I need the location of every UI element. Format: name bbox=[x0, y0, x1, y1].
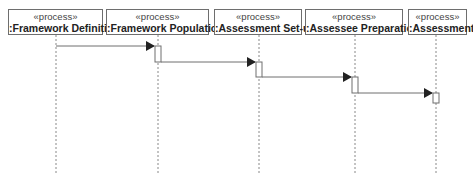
participant-name: :Assessment bbox=[409, 22, 466, 34]
participant-assessee-preparation: «process» :Assessee Preparation bbox=[305, 9, 403, 35]
sequence-diagram: «process» :Framework Definition «process… bbox=[0, 0, 473, 182]
arrowhead-icon bbox=[424, 88, 433, 98]
participant-name: :Assessee Preparation bbox=[306, 22, 402, 34]
participant-framework-definition: «process» :Framework Definition bbox=[8, 9, 103, 35]
participant-assessment: «process» :Assessment bbox=[408, 9, 467, 35]
stereotype-label: «process» bbox=[107, 11, 208, 22]
stereotype-label: «process» bbox=[9, 11, 102, 22]
stereotype-label: «process» bbox=[409, 11, 466, 22]
stereotype-label: «process» bbox=[215, 11, 301, 22]
participant-name: :Framework Population bbox=[107, 22, 208, 34]
arrowhead-icon bbox=[343, 72, 352, 82]
participant-framework-population: «process» :Framework Population bbox=[106, 9, 209, 35]
participant-name: :Assessment Set-up bbox=[215, 22, 301, 34]
participant-assessment-setup: «process» :Assessment Set-up bbox=[214, 9, 302, 35]
stereotype-label: «process» bbox=[306, 11, 402, 22]
arrowhead-icon bbox=[247, 57, 256, 67]
activation-bar bbox=[433, 93, 439, 103]
participant-name: :Framework Definition bbox=[9, 22, 102, 34]
arrowhead-icon bbox=[146, 41, 155, 51]
activation-bar bbox=[256, 62, 262, 77]
activation-bar bbox=[352, 77, 358, 93]
activation-bar bbox=[155, 46, 161, 62]
